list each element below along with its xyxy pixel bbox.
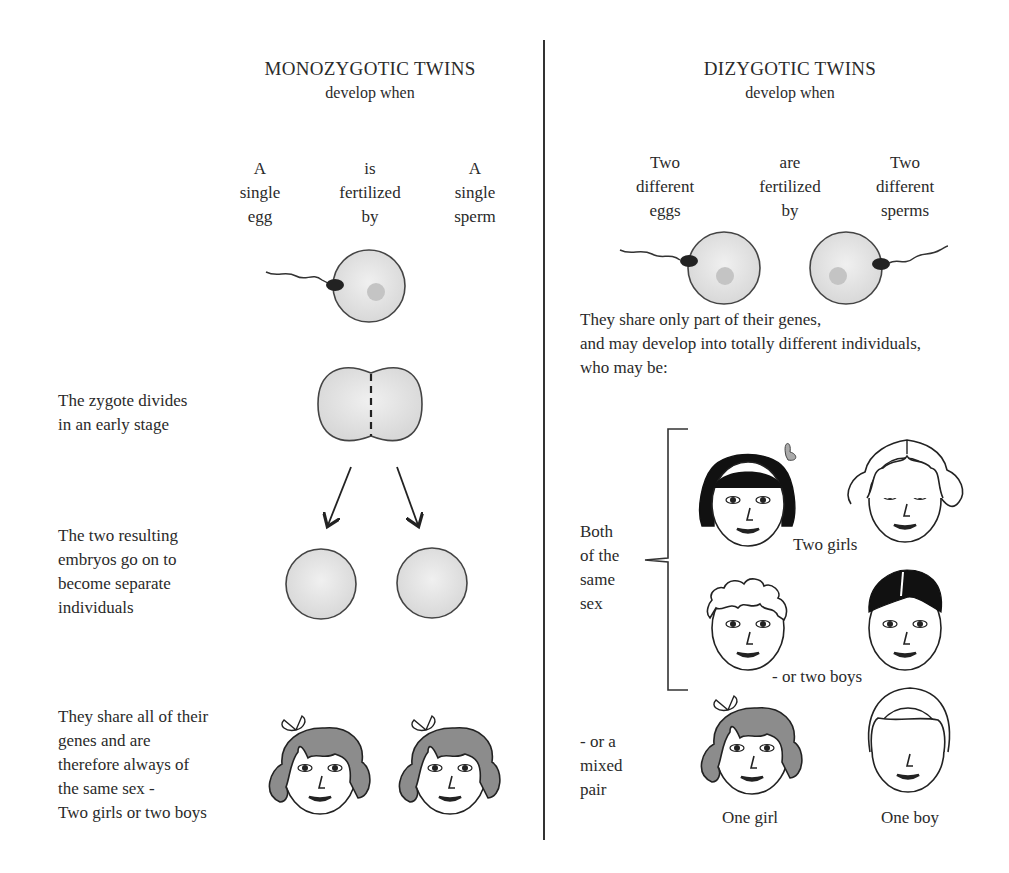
left-fertilization-illustration	[266, 250, 405, 322]
left-sperm-label: A single sperm	[440, 157, 510, 229]
left-egg-label: A single egg	[230, 157, 290, 229]
step-separate-embryos: The two resulting embryos go on to becom…	[58, 524, 258, 620]
dividing-zygote-illustration	[318, 368, 422, 441]
right-sperms-label: Two different sperms	[855, 151, 955, 223]
same-sex-label: Both of the same sex	[580, 520, 650, 616]
two-girls-label: Two girls	[793, 533, 893, 557]
mixed-pair-label: - or a mixed pair	[580, 730, 650, 802]
dizygotic-title: DIZYGOTIC TWINS	[640, 58, 940, 80]
one-boy-label: One boy	[860, 806, 960, 830]
dizygotic-subtitle: develop when	[640, 84, 940, 102]
right-fertilized-label: are fertilized by	[740, 151, 840, 223]
arrow-right	[397, 467, 418, 525]
right-fertilization-illustration	[620, 232, 948, 304]
two-boys-label: - or two boys	[772, 665, 892, 689]
step-share-all-genes: They share all of their genes and are th…	[58, 705, 268, 825]
one-girl-label: One girl	[700, 806, 800, 830]
step-zygote-divides: The zygote divides in an early stage	[58, 389, 258, 437]
right-eggs-label: Two different eggs	[620, 151, 710, 223]
dizygotic-description: They share only part of their genes, and…	[580, 308, 1000, 380]
left-fertilized-label: is fertilized by	[320, 157, 420, 229]
column-divider	[543, 40, 545, 840]
monozygotic-subtitle: develop when	[220, 84, 520, 102]
arrow-left	[328, 467, 351, 525]
monozygotic-title: MONOZYGOTIC TWINS	[220, 58, 520, 80]
